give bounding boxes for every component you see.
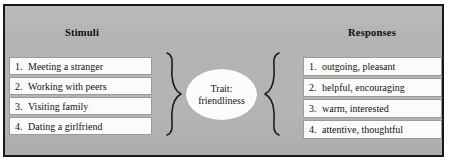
trait-group: Trait: friendliness — [160, 50, 300, 138]
list-item: 3. warm, interested — [303, 99, 442, 118]
list-item-label: helpful, encouraging — [322, 82, 405, 93]
list-item-number: 1. — [15, 61, 28, 72]
list-item: 2. helpful, encouraging — [303, 78, 442, 97]
list-item-label: Visiting family — [28, 101, 88, 112]
list-item: 3. Visiting family — [9, 97, 152, 115]
responses-list: 1. outgoing, pleasant 2. helpful, encour… — [303, 57, 442, 139]
list-item-label: outgoing, pleasant — [322, 61, 395, 72]
list-item-number: 2. — [15, 81, 28, 92]
right-curly-brace-icon — [162, 50, 188, 138]
figure-root: Stimuli Responses 1. Meeting a stranger … — [0, 0, 452, 167]
list-item: 1. outgoing, pleasant — [303, 57, 442, 76]
list-item-number: 1. — [309, 61, 322, 72]
list-item: 4. Dating a girlfriend — [9, 117, 152, 135]
trait-label-line1: Trait: — [211, 83, 233, 95]
list-item-number: 3. — [309, 103, 322, 114]
responses-heading: Responses — [298, 27, 446, 38]
left-curly-brace-icon — [258, 50, 284, 138]
stimuli-heading: Stimuli — [8, 27, 156, 38]
list-item-number: 2. — [309, 82, 322, 93]
trait-ellipse: Trait: friendliness — [186, 69, 257, 120]
list-item-label: warm, interested — [322, 103, 389, 114]
stimuli-list: 1. Meeting a stranger 2. Working with pe… — [9, 57, 152, 135]
list-item-number: 3. — [15, 101, 28, 112]
list-item-number: 4. — [309, 124, 322, 135]
list-item-label: attentive, thoughtful — [322, 124, 403, 135]
list-item: 2. Working with peers — [9, 77, 152, 95]
list-item: 4. attentive, thoughtful — [303, 120, 442, 139]
list-item-label: Meeting a stranger — [28, 61, 103, 72]
list-item-label: Working with peers — [28, 81, 107, 92]
list-item-number: 4. — [15, 121, 28, 132]
list-item: 1. Meeting a stranger — [9, 57, 152, 75]
list-item-label: Dating a girlfriend — [28, 121, 102, 132]
trait-label-line2: friendliness — [198, 95, 245, 107]
